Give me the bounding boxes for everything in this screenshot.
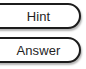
answer-button[interactable]: Answer: [0, 37, 81, 63]
hint-button[interactable]: Hint: [0, 3, 81, 29]
answer-button-label: Answer: [7, 44, 61, 57]
hint-button-label: Hint: [17, 10, 51, 23]
button-panel: Hint Answer: [0, 0, 86, 69]
